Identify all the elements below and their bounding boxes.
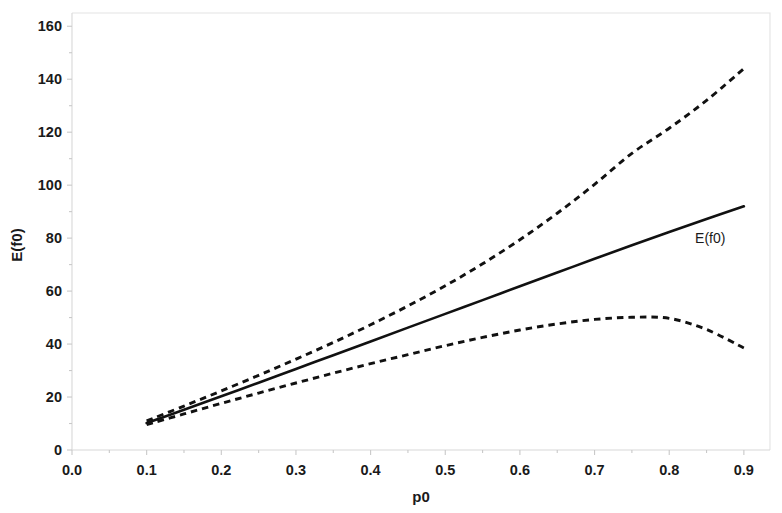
y-tick-label: 60 (46, 283, 62, 299)
chart-canvas: 020406080100120140160 0.00.10.20.30.40.5… (0, 0, 782, 513)
x-tick-label: 0.3 (286, 462, 306, 478)
x-tick-label: 0.1 (137, 462, 157, 478)
y-tick-label: 20 (46, 389, 62, 405)
x-axis: 0.00.10.20.30.40.50.60.70.80.9 (62, 450, 754, 478)
chart-container: 020406080100120140160 0.00.10.20.30.40.5… (0, 0, 782, 513)
series-line-E(f0) (147, 206, 744, 423)
y-tick-label: 120 (38, 124, 62, 140)
y-tick-label: 80 (46, 230, 62, 246)
x-tick-label: 0.5 (435, 462, 455, 478)
y-tick-label: 160 (38, 18, 62, 34)
y-tick-label: 0 (54, 442, 62, 458)
series-annotations: E(f0) (695, 230, 725, 246)
x-tick-label: 0.7 (584, 462, 604, 478)
plot-frame (72, 13, 770, 450)
series-line-upper-bound (147, 69, 744, 421)
frame-top-right (72, 13, 770, 450)
x-tick-label: 0.6 (510, 462, 530, 478)
x-tick-label: 0.8 (659, 462, 679, 478)
data-series-group (147, 69, 744, 425)
x-tick-label: 0.2 (211, 462, 231, 478)
series-label-expected: E(f0) (695, 230, 725, 246)
y-axis-title: E(f0) (8, 228, 25, 261)
x-tick-label: 0.9 (734, 462, 754, 478)
y-axis: 020406080100120140160 (38, 18, 72, 458)
y-tick-label: 40 (46, 336, 62, 352)
y-tick-label: 140 (38, 71, 62, 87)
y-tick-label: 100 (38, 177, 62, 193)
x-tick-label: 0.0 (62, 462, 82, 478)
x-axis-title: p0 (412, 488, 430, 505)
x-tick-label: 0.4 (361, 462, 381, 478)
series-line-lower-bound (147, 317, 744, 425)
